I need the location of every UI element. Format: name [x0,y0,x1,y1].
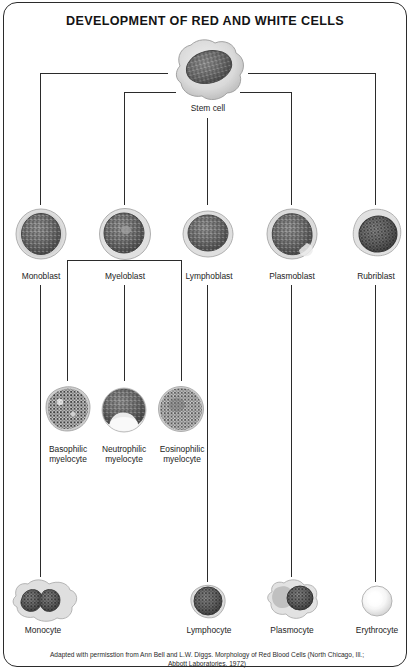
connector-stem-left-bus [40,73,168,74]
cell-image-basophilic-myelocyte [43,384,93,434]
caption-line-2: Abbott Laboratories, 1972) [24,660,390,669]
cell-image-monocyte [10,578,80,624]
cell-image-plasmoblast [263,205,321,263]
label-eosinophilic-myelocyte: Eosinophilic myelocyte [149,444,215,465]
cell-image-myeloblast [96,205,154,263]
cell-image-stem-cell [166,36,250,104]
connector-monoblast-down [40,285,41,577]
cell-image-lymphocyte [188,582,230,622]
label-basophilic-myelocyte: Basophilic myelocyte [36,444,100,465]
connector-to-rubriblast [375,73,376,205]
label-monocyte: Monocyte [8,625,78,635]
label-erythrocyte: Erythrocyte [342,625,410,635]
caption-line-1: Adapted with permisstion from Ann Bell a… [50,651,364,658]
cell-image-rubriblast [347,204,405,262]
connector-stem-right-bus [248,73,376,74]
cell-image-neutrophilic-myelocyte [100,386,148,434]
label-plasmoblast: Plasmoblast [254,271,330,281]
cell-image-plasmocyte [264,578,320,622]
label-lymphoblast: Lymphoblast [171,271,247,281]
label-neutrophilic-myelocyte: Neutrophilic myelocyte [92,444,156,465]
connector-to-plasmoblast [291,92,292,205]
label-stem-cell: Stem cell [167,103,249,113]
connector-plasmoblast-down [291,285,292,577]
figure-title: DEVELOPMENT OF RED AND WHITE CELLS [0,14,410,28]
connector-lymphoblast-down [207,285,208,582]
label-lymphocyte: Lymphocyte [174,625,244,635]
connector-to-myeloblast [124,92,125,205]
cell-image-monoblast [12,205,70,263]
figure-caption: Adapted with permisstion from Ann Bell a… [24,651,390,669]
connector-to-monoblast [40,73,41,205]
figure-root: DEVELOPMENT OF RED AND WHITE CELLS [0,0,410,671]
connector-rubriblast-down [375,285,376,582]
label-monoblast: Monoblast [4,271,78,281]
label-myeloblast: Myeloblast [88,271,162,281]
connector-to-lymphoblast [207,118,208,205]
cell-image-lymphoblast [180,207,236,261]
label-rubriblast: Rubriblast [339,271,410,281]
connector-myeloblast-down [124,285,125,381]
cell-image-erythrocyte [360,584,394,618]
label-plasmocyte: Plasmocyte [257,625,327,635]
cell-image-eosinophilic-myelocyte [157,385,205,433]
